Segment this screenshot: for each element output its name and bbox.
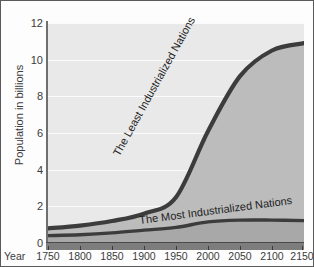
y-axis-line <box>46 21 48 245</box>
x-tick-label: 1950 <box>159 250 193 262</box>
y-tick-label: 2 <box>3 201 43 212</box>
y-axis-tick-labels: 12 10 8 6 4 2 0 <box>1 1 43 267</box>
x-tick-label: 1750 <box>31 250 65 262</box>
x-tick-label: 1850 <box>95 250 129 262</box>
chart-figure: Population in billions 12 10 8 6 4 2 0 T… <box>0 0 314 267</box>
y-tick-label: 8 <box>3 91 43 102</box>
x-tick-label: 2050 <box>223 250 257 262</box>
y-tick-label: 4 <box>3 165 43 176</box>
x-tick-label: 2000 <box>191 250 225 262</box>
y-tick-label: 0 <box>3 238 43 249</box>
y-tick-label: 10 <box>3 55 43 66</box>
y-tick-label: 12 <box>3 18 43 29</box>
x-tick-label: 1900 <box>127 250 161 262</box>
x-axis-line <box>46 242 304 250</box>
y-tick-label: 6 <box>3 128 43 139</box>
x-axis-tick-labels: 1750 1800 1850 1900 1950 2000 2050 2100 … <box>1 250 314 266</box>
x-tick-label: 2150 <box>285 250 314 262</box>
x-tick-label: 2100 <box>255 250 289 262</box>
x-tick-label: 1800 <box>63 250 97 262</box>
